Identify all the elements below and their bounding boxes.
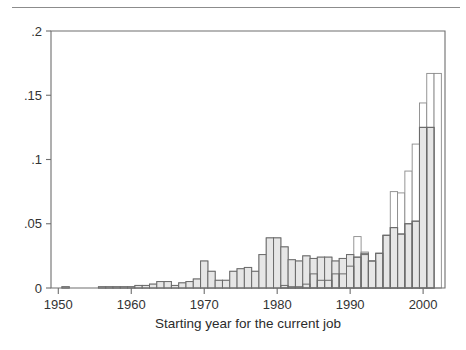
gray-series-bar (390, 228, 397, 288)
x-axis-title: Starting year for the current job (155, 316, 341, 331)
gray-series-bar (179, 283, 186, 288)
x-tick-label: 1950 (44, 297, 73, 312)
gray-series-bar (412, 221, 419, 288)
gray-series-bar (376, 253, 383, 288)
gray-series-bar (332, 261, 339, 288)
gray-series-bar (317, 257, 324, 288)
bars-gray-series (62, 127, 434, 288)
y-tick-label: .15 (24, 88, 42, 103)
white-series-bar (434, 73, 441, 288)
gray-series-bar (157, 282, 164, 288)
gray-series-bar (288, 260, 295, 288)
gray-series-bar (281, 247, 288, 288)
gray-series-bar (354, 257, 361, 288)
gray-series-bar (230, 271, 237, 288)
chart-figure: 0.05.1.15.2 195019601970198019902000 Sta… (0, 0, 466, 350)
gray-series-bar (150, 284, 157, 288)
gray-series-bar (310, 258, 317, 288)
gray-series-bar (193, 279, 200, 288)
gray-series-bar (419, 127, 426, 288)
y-tick-label: 0 (35, 281, 42, 296)
histogram-svg: 0.05.1.15.2 195019601970198019902000 Sta… (0, 0, 466, 350)
figure-page: 0.05.1.15.2 195019601970198019902000 Sta… (0, 0, 466, 350)
y-tick-label: .2 (31, 24, 42, 39)
gray-series-bar (325, 257, 332, 288)
gray-series-bar (237, 269, 244, 288)
y-tick-label: .1 (31, 152, 42, 167)
gray-series-bar (274, 238, 281, 288)
gray-series-bar (361, 253, 368, 288)
x-tick-label: 1960 (117, 297, 146, 312)
gray-series-bar (405, 224, 412, 288)
gray-series-bar (383, 235, 390, 288)
gray-series-bar (259, 255, 266, 288)
gray-series-bar (339, 258, 346, 288)
gray-series-bar (266, 238, 273, 288)
gray-series-bar (398, 234, 405, 288)
gray-series-bar (347, 255, 354, 288)
gray-series-bar (252, 271, 259, 288)
x-tick-label: 1970 (190, 297, 219, 312)
x-tick-label: 1990 (336, 297, 365, 312)
x-tick-label: 1980 (263, 297, 292, 312)
gray-series-bar (201, 261, 208, 288)
gray-series-bar (208, 271, 215, 288)
gray-series-bar (427, 127, 434, 288)
gray-series-bar (303, 256, 310, 288)
x-tick-label: 2000 (409, 297, 438, 312)
gray-series-bar (368, 261, 375, 288)
y-tick-label: .05 (24, 216, 42, 231)
gray-series-bar (295, 261, 302, 288)
gray-series-bar (244, 267, 251, 288)
x-axis-ticks: 195019601970198019902000 (44, 288, 438, 312)
gray-series-bar (164, 282, 171, 288)
y-axis-ticks: 0.05.1.15.2 (24, 24, 51, 296)
gray-series-bar (186, 282, 193, 288)
gray-series-bar (222, 280, 229, 288)
gray-series-bar (215, 280, 222, 288)
